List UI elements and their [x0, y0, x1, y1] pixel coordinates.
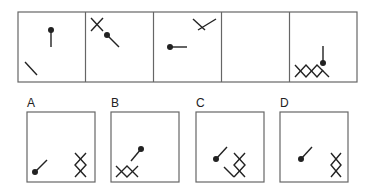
option-a-label: A [27, 96, 35, 110]
sequence-strip [18, 12, 357, 82]
cell-5-figure [295, 46, 329, 77]
option-c-figure[interactable] [214, 147, 245, 177]
option-d-label: D [280, 96, 289, 110]
options [27, 112, 348, 182]
option-d-figure[interactable] [299, 147, 341, 177]
option-c-label: C [196, 96, 205, 110]
puzzle-diagram [0, 0, 376, 189]
cell-1-figure [25, 28, 53, 75]
option-b-label: B [111, 96, 119, 110]
option-a-figure[interactable] [33, 153, 86, 177]
cell-2-figure [91, 18, 119, 47]
cell-3-figure [168, 19, 216, 49]
option-b-figure[interactable] [116, 147, 143, 177]
